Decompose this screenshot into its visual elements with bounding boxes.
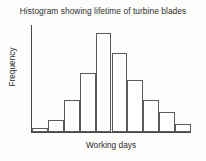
x-axis-line <box>31 132 191 133</box>
histogram-bar <box>127 80 143 132</box>
y-axis-label: Frequency <box>7 37 17 97</box>
chart-title: Histogram showing lifetime of turbine bl… <box>0 6 206 16</box>
histogram-bars <box>32 25 191 132</box>
histogram-bar <box>112 53 128 132</box>
histogram-bar <box>175 124 191 132</box>
histogram-bar <box>48 120 64 132</box>
histogram-bar <box>143 100 159 132</box>
x-axis-label: Working days <box>31 140 191 150</box>
histogram-bar <box>96 33 112 132</box>
histogram-bar <box>80 73 96 132</box>
histogram-bar <box>32 128 48 132</box>
histogram-bar <box>159 112 175 132</box>
plot-area <box>31 25 191 133</box>
histogram-bar <box>64 100 80 132</box>
histogram-screenshot: Histogram showing lifetime of turbine bl… <box>0 0 206 161</box>
